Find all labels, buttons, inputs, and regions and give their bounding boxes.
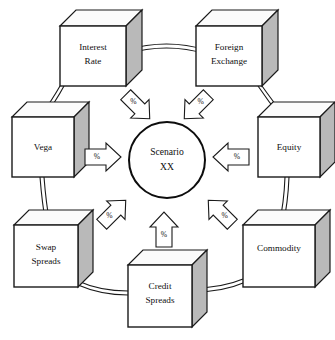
node-swap-spreads[interactable]: Swap Spreads [14,210,93,287]
node-interest-rate[interactable]: Interest Rate [60,10,142,86]
arrow-equity[interactable]: % [213,143,249,171]
arrow-vega-label: % [94,152,101,161]
arrow-vega[interactable]: % [85,143,121,171]
credit-spreads-label-line1: Credit [149,281,172,291]
scenario-circle [129,122,205,198]
scenario-node[interactable]: Scenario XX [129,122,205,198]
arrow-equity-label: % [234,152,241,161]
arrow-foreign-exchange[interactable]: % [175,85,217,127]
arrow-interest-rate-shape [116,85,158,127]
arrow-vega-shape [85,143,121,171]
interest-rate-label-line2: Rate [85,56,102,66]
foreign-exchange-label-line1: Foreign [215,42,244,52]
arrow-commodity[interactable]: % [199,191,241,233]
arrow-swap-spreads[interactable]: % [92,191,134,233]
node-foreign-exchange[interactable]: Foreign Exchange [196,10,278,86]
arrow-interest-rate-label: % [130,97,137,106]
foreign-exchange-label-line2: Exchange [211,56,247,66]
scenario-diagram: Scenario XX Interest Rate Foreign Exchan… [0,0,335,340]
credit-spreads-label-line2: Spreads [145,295,175,305]
equity-label-line1: Equity [277,142,302,152]
arrow-equity-shape [213,143,249,171]
vega-label-line1: Vega [34,142,52,152]
ring-arc-bottom-left-inner [78,285,128,295]
arrow-foreign-exchange-label: % [197,97,204,106]
commodity-label-line1: Commodity [257,243,301,253]
arrow-credit-spreads-label: % [161,230,168,239]
swap-spreads-label-line2: Spreads [31,256,61,266]
interest-rate-label-line1: Interest [79,42,107,52]
scenario-label-line2: XX [160,161,174,172]
node-credit-spreads[interactable]: Credit Spreads [128,250,207,327]
ring-arc-bottom-left-outer [78,281,128,291]
arrow-swap-spreads-shape [92,191,134,233]
diagram-canvas: Scenario XX Interest Rate Foreign Exchan… [0,0,335,340]
arrow-swap-spreads-label: % [106,211,113,220]
arrow-interest-rate[interactable]: % [116,85,158,127]
arrow-credit-spreads[interactable]: % [150,212,178,247]
arrow-commodity-shape [199,191,241,233]
node-vega[interactable]: Vega [12,102,89,177]
commodity-cube-front [243,225,315,287]
swap-spreads-label-line1: Swap [36,242,57,252]
node-commodity[interactable]: Commodity [243,210,330,287]
arrow-foreign-exchange-shape [175,85,217,127]
node-equity[interactable]: Equity [258,102,335,177]
arrow-commodity-label: % [221,211,228,220]
scenario-label-line1: Scenario [150,146,184,157]
